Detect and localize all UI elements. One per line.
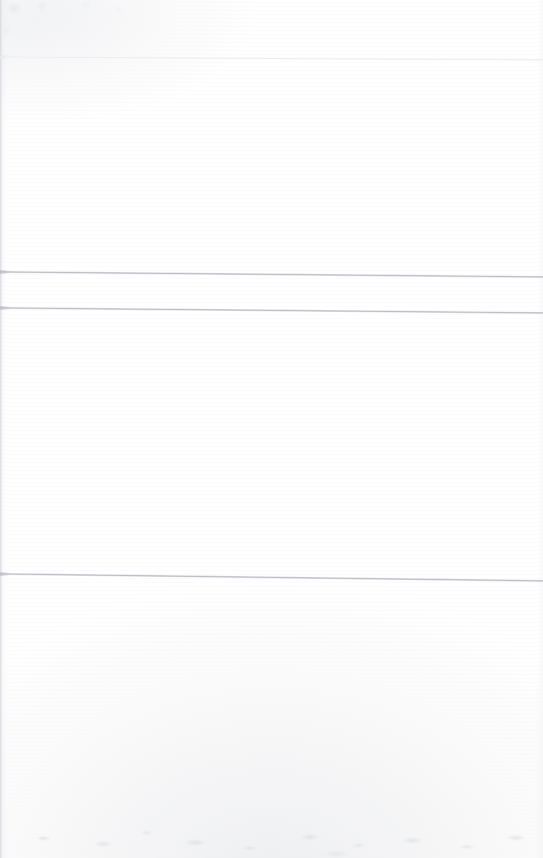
paper-background [0, 0, 543, 858]
scanned-page [0, 0, 543, 858]
